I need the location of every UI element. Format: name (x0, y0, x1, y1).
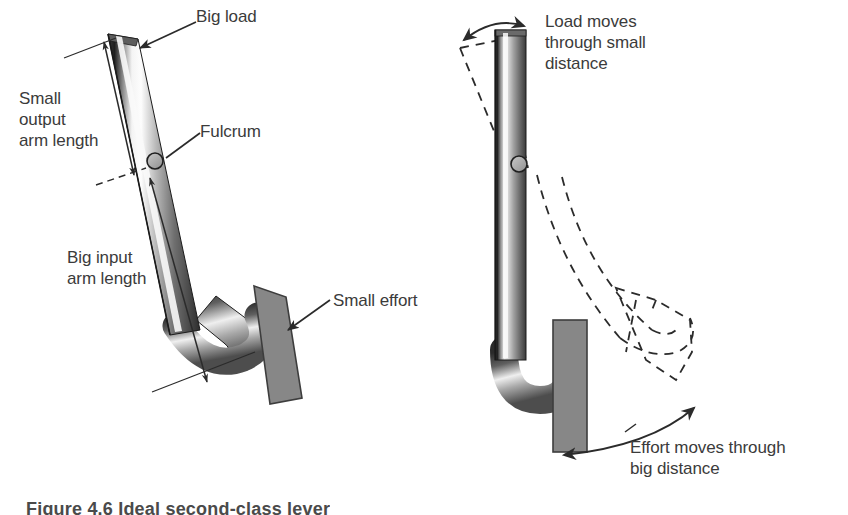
effort-label-tick-icon (625, 424, 636, 432)
lever-bar-left (108, 34, 263, 366)
effort-block-left (254, 286, 302, 404)
label-small-effort: Small effort (333, 290, 417, 311)
label-fulcrum: Fulcrum (200, 121, 261, 142)
fulcrum-pivot-right-icon (511, 156, 527, 172)
label-load-moves-through-small-distance: Load moves through small distance (545, 11, 646, 74)
right-panel-group (460, 23, 694, 455)
effort-block-right (553, 320, 587, 452)
fulcrum-pivot-icon (147, 153, 163, 169)
label-big-input-arm-length: Big input arm length (67, 247, 146, 289)
label-big-load: Big load (196, 6, 257, 27)
figure-caption: Figure 4.6 Ideal second-class lever (26, 499, 330, 515)
label-small-output-arm-length: Small output arm length (19, 88, 98, 151)
fulcrum-leader-line-icon (166, 133, 200, 158)
small-effort-arrow-icon (288, 300, 330, 330)
big-load-arrow-icon (140, 22, 196, 48)
label-effort-moves-through-big-distance: Effort moves through big distance (630, 437, 786, 479)
left-panel-group (64, 22, 330, 404)
figure-root: Big load Small output arm length Fulcrum… (0, 0, 848, 515)
